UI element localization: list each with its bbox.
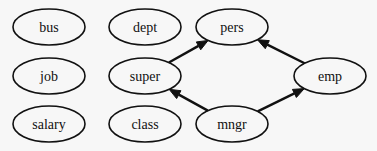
edge-emp-to-pers (257, 40, 304, 64)
edge-mngr-to-super (169, 89, 208, 110)
arrowhead-icon (169, 89, 181, 98)
edge-line (169, 46, 199, 63)
graph-svg: busjobsalarydeptsuperclasspersempmngr (0, 0, 377, 151)
arrowhead-icon (257, 40, 269, 49)
node-label: job (39, 69, 58, 84)
node-label: dept (133, 20, 157, 35)
edge-line (179, 95, 208, 111)
node-mngr[interactable]: mngr (196, 106, 268, 142)
node-label: class (131, 117, 158, 132)
node-emp[interactable]: emp (294, 58, 366, 94)
node-class[interactable]: class (109, 106, 181, 142)
node-label: mngr (217, 117, 247, 132)
node-label: super (130, 69, 161, 84)
edge-line (258, 93, 295, 111)
node-label: salary (32, 117, 65, 132)
node-pers[interactable]: pers (196, 9, 268, 45)
arrowhead-icon (292, 89, 304, 98)
node-label: emp (318, 69, 342, 84)
node-super[interactable]: super (109, 58, 181, 94)
node-label: pers (220, 20, 243, 35)
graph-canvas: busjobsalarydeptsuperclasspersempmngr (0, 0, 377, 151)
node-salary[interactable]: salary (13, 106, 85, 142)
edge-super-to-pers (169, 40, 208, 62)
arrowhead-icon (196, 40, 208, 49)
node-bus[interactable]: bus (13, 9, 85, 45)
edge-mngr-to-emp (258, 89, 305, 112)
node-job[interactable]: job (13, 58, 85, 94)
node-label: bus (39, 20, 58, 35)
node-dept[interactable]: dept (109, 9, 181, 45)
edge-line (267, 45, 304, 64)
